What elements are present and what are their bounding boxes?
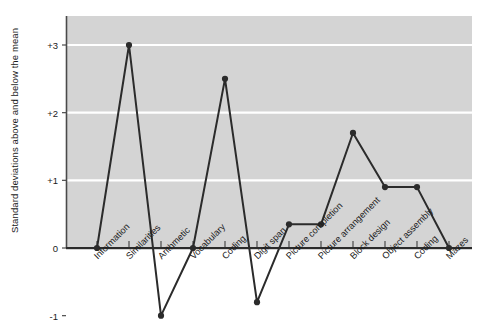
y-axis-tick-label: +3 bbox=[34, 40, 58, 51]
y-axis-tick-label: +1 bbox=[34, 175, 58, 186]
chart-container: Standard deviations above and below the … bbox=[0, 0, 492, 332]
data-point bbox=[414, 184, 420, 190]
data-point bbox=[222, 76, 228, 82]
data-point bbox=[286, 221, 292, 227]
y-axis-tick-label: +2 bbox=[34, 107, 58, 118]
plot-panel-background bbox=[66, 16, 472, 248]
y-axis-tick-label: 0 bbox=[34, 243, 58, 254]
data-point bbox=[382, 184, 388, 190]
plot-area bbox=[0, 0, 492, 332]
data-point bbox=[126, 42, 132, 48]
data-point bbox=[254, 299, 260, 305]
y-axis-tick-label: -1 bbox=[34, 310, 58, 321]
y-axis-label-text: Standard deviations above and below the … bbox=[10, 27, 21, 232]
data-point bbox=[350, 130, 356, 136]
y-axis-label: Standard deviations above and below the … bbox=[0, 0, 30, 260]
data-point bbox=[158, 313, 164, 319]
